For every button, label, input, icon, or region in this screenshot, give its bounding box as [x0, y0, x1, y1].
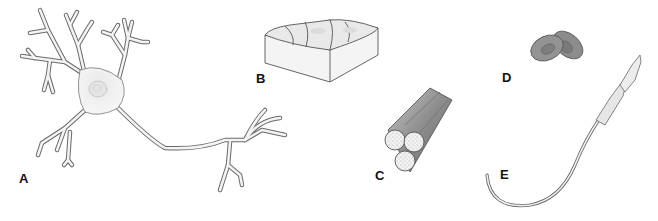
panel-label-a: A: [19, 172, 28, 185]
neuron-illustration: [22, 10, 285, 190]
cell-types-figure: A B C D E: [0, 0, 658, 221]
panel-label-d: D: [502, 71, 511, 84]
epithelial-tissue-illustration: [265, 20, 378, 82]
red-blood-cells-illustration: [527, 26, 589, 66]
muscle-fiber-illustration: [385, 88, 452, 172]
panel-label-b: B: [256, 72, 265, 85]
panel-label-e: E: [500, 168, 509, 181]
figure-drawing: [0, 0, 658, 221]
panel-label-c: C: [375, 169, 384, 182]
